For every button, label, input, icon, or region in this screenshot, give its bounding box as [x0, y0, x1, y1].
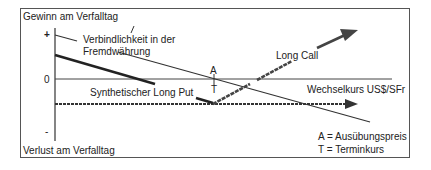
long-call-line-a: [213, 84, 250, 104]
synthetic-put-label: Synthetischer Long Put: [90, 87, 193, 98]
legend-a: A = Ausübungspreis: [318, 131, 407, 142]
y-axis-bottom-label: Verlust am Verfalltag: [23, 145, 115, 156]
long-call-label: Long Call: [276, 50, 318, 61]
y-tick-plus: +: [44, 29, 50, 40]
synthetic-put-line-b: [196, 98, 213, 103]
marker-t: T: [211, 84, 217, 95]
y-axis-top-label: Gewinn am Verfalltag: [23, 11, 118, 22]
synthetic-put-line-a: [55, 55, 155, 84]
liability-label-line2: Fremdwährung: [83, 46, 150, 57]
long-call-line-c: [317, 35, 345, 48]
leader-tick: [131, 26, 134, 33]
liability-label-line1: Verbindlichkeit in der: [83, 34, 175, 45]
marker-a: A: [210, 65, 217, 76]
liability-line-a: [55, 35, 77, 41]
y-tick-zero: 0: [44, 74, 50, 85]
y-tick-minus: -: [45, 126, 48, 137]
long-call-line-b: [257, 61, 292, 80]
legend-t: T = Terminkurs: [318, 144, 384, 155]
base-arrow-head: [345, 99, 358, 109]
long-call-arrow-head: [340, 29, 358, 41]
x-axis-label: Wechselkurs US$/SFr: [307, 84, 405, 95]
